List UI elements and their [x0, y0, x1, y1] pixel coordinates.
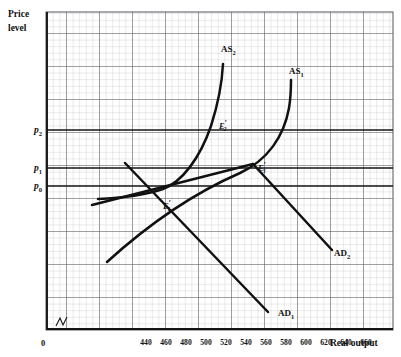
x-tick-460: 460 [160, 338, 172, 347]
figure-canvas: Price level Real output 0 p2p1p0 4404604… [0, 0, 401, 357]
y-tick-p2: p2 [33, 125, 43, 136]
y-axis-label-line2: level [8, 23, 27, 33]
x-tick-560: 560 [260, 338, 272, 347]
x-tick-500: 500 [200, 338, 212, 347]
x-tick-480: 480 [180, 338, 192, 347]
x-tick-580: 580 [280, 338, 292, 347]
ad-as-diagram: Price level Real output 0 p2p1p0 4404604… [0, 0, 401, 357]
y-axis-label-line1: Price [8, 9, 29, 19]
equilibrium-label-e1: E′1 [162, 199, 171, 212]
origin-label: 0 [41, 339, 45, 348]
equilibrium-label-e3: E′3 [257, 161, 266, 174]
x-tick-600: 600 [300, 338, 312, 347]
grid-background [46, 12, 393, 330]
x-tick-660: 660 [360, 338, 372, 347]
equilibrium-label-e2: E′2 [218, 119, 227, 132]
x-tick-620: 620 [320, 338, 332, 347]
x-tick-520: 520 [220, 338, 232, 347]
y-tick-p1: p1 [33, 163, 42, 174]
y-tick-labels: p2p1p0 [33, 125, 43, 192]
y-tick-p0: p0 [33, 181, 43, 192]
x-tick-540: 540 [240, 338, 252, 347]
x-tick-640: 640 [340, 338, 352, 347]
x-tick-440: 440 [140, 338, 152, 347]
